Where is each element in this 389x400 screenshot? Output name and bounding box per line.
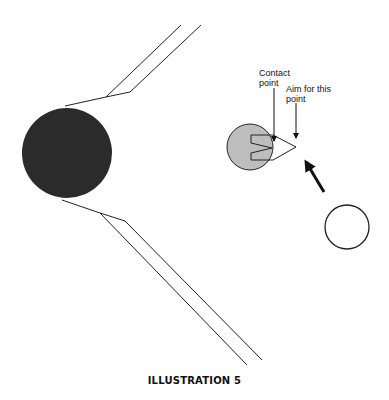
bottom-rail-lines xyxy=(62,200,262,365)
pocket-ball xyxy=(22,108,112,198)
aim-point-label-line1: Aim for this xyxy=(286,84,331,94)
aim-point-label-line2: point xyxy=(286,94,331,104)
illustration-canvas: Contact point Aim for this point ILLUSTR… xyxy=(0,0,389,400)
aim-point-label: Aim for this point xyxy=(286,84,331,104)
figure-caption: ILLUSTRATION 5 xyxy=(0,375,389,386)
direction-arrow-icon xyxy=(306,162,324,192)
contact-point-label-line1: Contact xyxy=(259,68,290,78)
diagram-graphics xyxy=(0,0,389,400)
cue-ball xyxy=(325,205,369,249)
top-rail-lines xyxy=(65,25,201,106)
